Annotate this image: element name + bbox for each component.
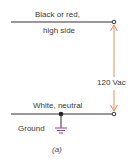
neutral-label: White, neutral — [33, 101, 82, 110]
high-side-label-line1: Black or red, — [35, 10, 80, 19]
voltage-arrow — [111, 25, 118, 111]
high-side-label-line2: high side — [43, 26, 75, 35]
ground-symbol-icon — [55, 128, 67, 133]
figure-caption: (a) — [52, 145, 62, 154]
high-side-terminal — [112, 20, 116, 24]
voltage-label: 120 Vac — [97, 78, 126, 87]
ground-label: Ground — [18, 124, 45, 133]
neutral-terminal — [112, 112, 116, 116]
